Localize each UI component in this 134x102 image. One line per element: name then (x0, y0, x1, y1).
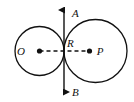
geometry-figure: O P R A B (0, 0, 134, 102)
label-r: R (66, 37, 74, 49)
label-a: A (71, 7, 79, 19)
label-b: B (72, 86, 79, 98)
label-p: P (96, 45, 104, 57)
geometry-canvas: O P R A B (0, 0, 134, 102)
circle-p (64, 20, 127, 83)
point-o-dot (37, 48, 42, 53)
point-p-dot (87, 48, 92, 53)
label-o: O (17, 45, 25, 57)
